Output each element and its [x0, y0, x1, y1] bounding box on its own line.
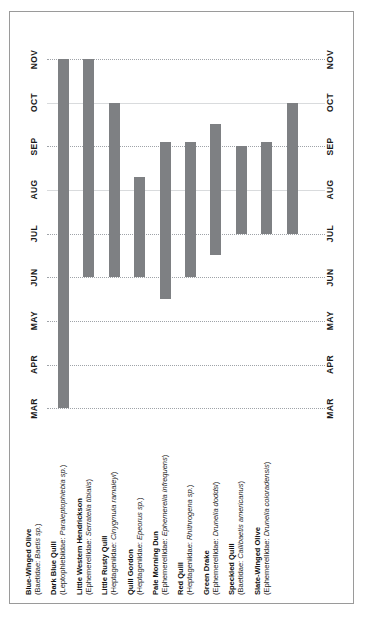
species-legend: Blue-Winged Olive(Baetidae: Baetis sp.)D…: [10, 412, 353, 603]
bar-dark-blue-quill: [83, 59, 94, 277]
tick-label-left-jul: JUL: [29, 217, 40, 251]
hatch-chart-plot-area: MARAPRMAYJUNJULAUGSEPOCTNOV MARAPRMAYJUN…: [10, 12, 353, 412]
bar-pale-morning-dun: [185, 142, 196, 277]
bar-quill-gordon: [160, 142, 171, 299]
legend-entry-speckled-quill: Speckled Quill(Baetidae: Callibaetis ame…: [227, 413, 249, 595]
legend-common-name: Red Quill: [176, 413, 185, 595]
tick-label-right-apr: APR: [325, 348, 336, 382]
bar-little-rusty-quill: [134, 177, 145, 277]
legend-entry-little-rusty-quill: Little Rusty Quill(Heptageniidae: Cinygm…: [100, 413, 122, 595]
legend-common-name: Green Drake: [202, 413, 211, 595]
legend-entry-little-western-hendrickson: Little Western Hendrickson(Ephemerellida…: [75, 413, 97, 595]
bar-little-western-hendrickson: [109, 103, 120, 278]
legend-entry-quill-gordon: Quill Gordon(Heptageniidae: Epeorus sp.): [126, 413, 148, 595]
legend-entry-slate-winged-olive: Slate-Winged Olive(Ephemerellidae: Drune…: [253, 413, 275, 595]
legend-scientific-name: (Ephemerellidae: Drunella doddsi): [211, 413, 220, 595]
gridline-may: [47, 321, 325, 322]
legend-entry-blue-winged-olive: Blue-Winged Olive(Baetidae: Baetis sp.): [24, 413, 46, 595]
tick-label-left-nov: NOV: [29, 42, 40, 76]
legend-common-name: Dark Blue Quill: [49, 413, 58, 595]
tick-label-right-sep: SEP: [325, 129, 336, 163]
gridline-mar: [47, 408, 325, 409]
legend-scientific-name: (Baetidae: Baetis sp.): [33, 413, 42, 595]
tick-label-right-may: MAY: [325, 304, 336, 338]
tick-label-left-may: MAY: [29, 304, 40, 338]
tick-label-right-nov: NOV: [325, 42, 336, 76]
tick-label-left-jun: JUN: [29, 260, 40, 294]
legend-common-name: Little Rusty Quill: [100, 413, 109, 595]
bar-green-drake: [236, 146, 247, 233]
legend-scientific-name: (Heptageniidae: Epeorus sp.): [135, 413, 144, 595]
tick-label-right-aug: AUG: [325, 173, 336, 207]
legend-common-name: Blue-Winged Olive: [24, 413, 33, 595]
tick-label-left-aug: AUG: [29, 173, 40, 207]
legend-scientific-name: (Baetidae: Callibaetis americanus): [237, 413, 246, 595]
tick-label-left-oct: OCT: [29, 86, 40, 120]
legend-scientific-name: (Heptageniidae: Rhithrogena sp.): [186, 413, 195, 595]
legend-entry-pale-morning-dun: Pale Morning Dun(Ephemerellidae: Ephemer…: [151, 413, 173, 595]
legend-common-name: Slate-Winged Olive: [253, 413, 262, 595]
legend-entry-dark-blue-quill: Dark Blue Quill(Leptophlebiidae: Paralep…: [49, 413, 71, 595]
legend-scientific-name: (Ephemerellidae: Serratella tibialis): [84, 413, 93, 595]
legend-scientific-name: (Ephemerellidae: Drunella coloradensis): [262, 413, 271, 595]
legend-scientific-name: (Heptageniidae: Cinygmula ramaleyi): [110, 413, 119, 595]
legend-scientific-name: (Ephemerellidae: Ephemerella infrequens): [160, 413, 169, 595]
legend-common-name: Pale Morning Dun: [151, 413, 160, 595]
tick-label-left-sep: SEP: [29, 129, 40, 163]
bar-slate-winged-olive: [287, 103, 298, 234]
tick-label-left-apr: APR: [29, 348, 40, 382]
figure-frame: MARAPRMAYJUNJULAUGSEPOCTNOV MARAPRMAYJUN…: [9, 11, 354, 604]
gridline-jun: [47, 277, 325, 278]
gridline-apr: [47, 365, 325, 366]
legend-common-name: Little Western Hendrickson: [75, 413, 84, 595]
legend-entry-green-drake: Green Drake(Ephemerellidae: Drunella dod…: [202, 413, 224, 595]
tick-label-right-jul: JUL: [325, 217, 336, 251]
bar-blue-winged-olive: [58, 59, 69, 408]
bar-red-quill: [210, 124, 221, 255]
legend-entry-red-quill: Red Quill(Heptageniidae: Rhithrogena sp.…: [176, 413, 198, 595]
bar-speckled-quill: [261, 142, 272, 234]
legend-common-name: Speckled Quill: [227, 413, 236, 595]
tick-label-right-jun: JUN: [325, 260, 336, 294]
legend-scientific-name: (Leptophlebiidae: Paraleptophlebia sp.): [59, 413, 68, 595]
tick-label-right-oct: OCT: [325, 86, 336, 120]
legend-common-name: Quill Gordon: [126, 413, 135, 595]
